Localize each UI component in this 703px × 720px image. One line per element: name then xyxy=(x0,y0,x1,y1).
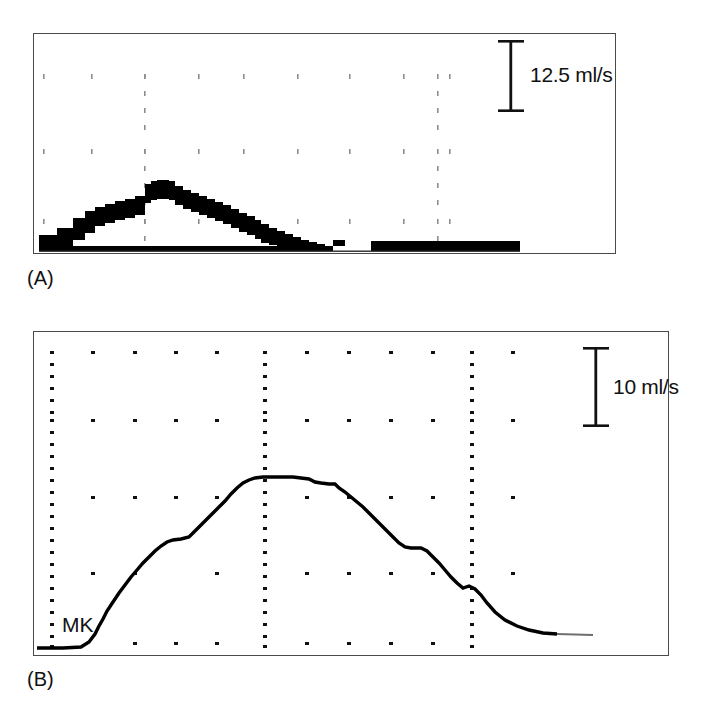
panel-b-plot xyxy=(33,331,669,656)
scalebar-b xyxy=(581,347,611,427)
panel-a-trace xyxy=(39,180,520,252)
panel-b-trace xyxy=(37,477,593,648)
panel-b-grid-dots xyxy=(50,351,515,648)
uroflowmetry-figure: 12.5 ml/s (A) xyxy=(0,0,703,720)
panel-b xyxy=(33,331,669,656)
panel-a xyxy=(33,33,616,254)
panel-b-caption: (B) xyxy=(27,668,54,691)
panel-b-annotation-mk: MK xyxy=(62,613,94,637)
scalebar-a xyxy=(496,40,526,112)
scalebar-b-label: 10 ml/s xyxy=(613,375,679,399)
panel-a-plot xyxy=(33,33,616,254)
panel-a-caption: (A) xyxy=(27,267,54,290)
scalebar-a-label: 12.5 ml/s xyxy=(530,63,613,87)
